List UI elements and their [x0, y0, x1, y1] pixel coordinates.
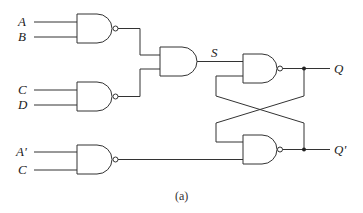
- figure-caption: (a): [175, 190, 188, 202]
- signal-label-s: S: [211, 46, 218, 59]
- input-label-a: A: [18, 15, 26, 28]
- input-label-c: C: [18, 83, 27, 96]
- circuit-drawing: [0, 0, 363, 213]
- latch-nand-top: [216, 54, 330, 149]
- output-label-q: Q: [334, 62, 343, 75]
- output-label-q-prime: Q': [334, 143, 346, 156]
- input-label-a-prime: A': [16, 145, 27, 158]
- latch-nand-bottom: [216, 69, 330, 165]
- input-label-c2: C: [18, 163, 27, 176]
- input-label-b: B: [18, 30, 26, 43]
- nand-gate-3: [34, 145, 243, 174]
- nand-gate-2: [34, 69, 160, 111]
- input-label-d: D: [18, 98, 27, 111]
- junction-dot-qprime: [302, 148, 306, 152]
- nand-gate-1: [34, 14, 160, 55]
- and-gate: [160, 47, 243, 76]
- junction-dot-q: [302, 67, 306, 71]
- logic-circuit-diagram: A B C D A' C S Q Q' (a): [0, 0, 363, 213]
